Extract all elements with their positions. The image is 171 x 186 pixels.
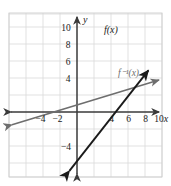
x-tick-label-neg4: −4 (35, 114, 45, 124)
y-tick-label-neg4: −4 (61, 142, 71, 152)
x-axis-letter: x (163, 113, 169, 124)
y-tick-label-6: 6 (66, 57, 71, 67)
x-tick-label-neg2: −2 (52, 114, 62, 124)
x-tick-label-6: 6 (126, 114, 131, 124)
y-axis-letter: y (82, 14, 88, 25)
x-tick-label-10: 10 (154, 114, 164, 124)
x-tick-label-8: 8 (143, 114, 148, 124)
graph-figure: 10 8 6 4 −4 −4 −2 4 6 8 10 y x f(x) f⁻¹(… (0, 0, 171, 186)
function-label-f-inverse: f⁻¹(x) (118, 68, 139, 79)
function-label-f: f(x) (104, 24, 119, 36)
coordinate-plane-graph: 10 8 6 4 −4 −4 −2 4 6 8 10 y x f(x) f⁻¹(… (0, 0, 171, 186)
y-tick-label-10: 10 (61, 23, 71, 33)
x-tick-label-4: 4 (109, 114, 114, 124)
y-tick-label-4: 4 (66, 74, 71, 84)
y-tick-label-8: 8 (66, 40, 71, 50)
